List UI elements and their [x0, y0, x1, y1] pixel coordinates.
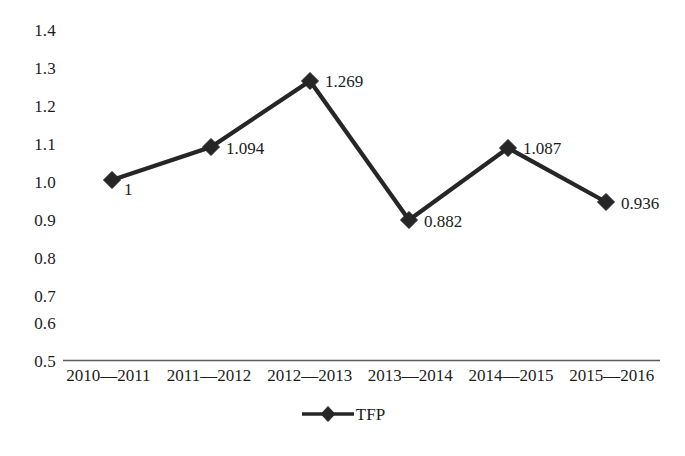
legend-label: TFP — [356, 406, 385, 423]
x-axis: 2010—2011 2011—2012 2012—2013 2013—2014 … — [58, 366, 662, 386]
data-point-label: 1.087 — [523, 140, 561, 157]
chart-legend: TFP — [0, 405, 685, 423]
line-chart: 1.4 1.3 1.2 1.1 1.0 0.9 0.8 0.7 0.6 0.5 — [0, 0, 685, 456]
data-point-label: 1.094 — [226, 140, 264, 157]
x-axis-tick-label: 2013—2014 — [360, 366, 461, 386]
x-axis-tick-label: 2010—2011 — [58, 366, 159, 386]
data-point-marker — [598, 194, 615, 211]
data-point-label: 1.269 — [325, 73, 363, 90]
data-point-label: 1 — [124, 181, 133, 198]
legend-line-marker-icon — [300, 405, 356, 423]
x-axis-tick-label: 2015—2016 — [561, 366, 662, 386]
data-point-marker — [104, 172, 121, 189]
data-point-label: 0.882 — [424, 213, 462, 230]
x-axis-tick-label: 2012—2013 — [259, 366, 360, 386]
data-point-label: 0.936 — [621, 195, 659, 212]
x-axis-tick-label: 2014—2015 — [461, 366, 562, 386]
series-plot — [0, 0, 685, 456]
x-axis-tick-label: 2011—2012 — [159, 366, 260, 386]
legend-item-tfp[interactable]: TFP — [300, 405, 385, 423]
plot-area: 1 1.094 1.269 0.882 1.087 0.936 — [0, 0, 685, 456]
